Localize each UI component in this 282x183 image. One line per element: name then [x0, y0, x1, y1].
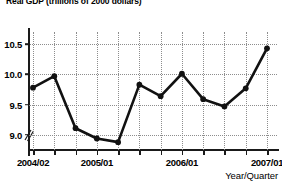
x-axis-tick-label: 2007/01	[251, 157, 282, 168]
y-axis-tick-label: 9.0	[9, 129, 22, 140]
data-point-marker	[264, 45, 270, 51]
x-axis-tick-mark	[118, 150, 120, 155]
chart-title: Real GDP (trillions of 2000 dollars)	[6, 0, 142, 6]
data-point-marker	[222, 104, 228, 110]
x-axis-tick-mark	[182, 150, 184, 155]
data-point-marker	[30, 85, 36, 91]
x-axis-tick-mark	[54, 150, 56, 155]
plot-area	[29, 32, 277, 150]
x-axis-tick-mark	[246, 150, 248, 155]
x-axis-tick-label: 2005/01	[81, 157, 113, 168]
data-point-marker	[200, 96, 206, 102]
data-point-marker	[136, 82, 142, 88]
x-axis-tick-mark	[76, 150, 78, 155]
y-axis-tick-label: 10.5	[4, 39, 22, 50]
gdp-line-chart: Real GDP (trillions of 2000 dollars) Yea…	[0, 0, 282, 183]
x-axis-tick-mark	[267, 150, 269, 155]
x-axis-tick-label: 2006/01	[166, 157, 198, 168]
data-point-marker	[51, 73, 57, 79]
x-axis-tick-label: 2004/02	[17, 157, 49, 168]
x-axis-tick-mark	[97, 150, 99, 155]
x-axis-tick-mark	[139, 150, 141, 155]
data-point-marker	[243, 85, 249, 91]
data-point-marker	[73, 125, 79, 131]
x-axis-tick-mark	[224, 150, 226, 155]
data-point-marker	[115, 139, 121, 145]
x-axis-title: Year/Quarter	[225, 170, 278, 181]
data-series-real-gdp	[29, 32, 277, 150]
data-point-marker	[179, 71, 185, 77]
x-axis-tick-mark	[161, 150, 163, 155]
x-axis-tick-mark	[33, 150, 35, 155]
series-line	[33, 48, 267, 142]
y-axis-tick-label: 9.5	[9, 99, 22, 110]
data-point-marker	[158, 93, 164, 99]
y-axis-tick-label: 10.0	[4, 69, 22, 80]
x-axis-tick-mark	[203, 150, 205, 155]
data-point-marker	[94, 136, 100, 142]
